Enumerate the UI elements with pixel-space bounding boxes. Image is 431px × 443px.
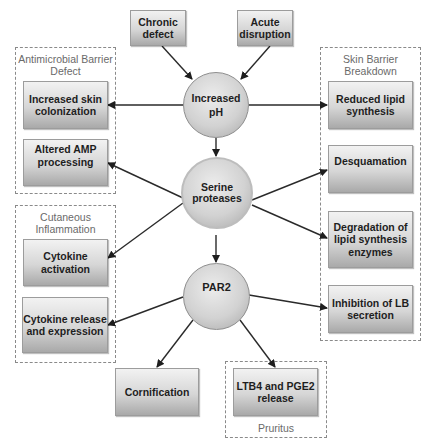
node-inhibition-lb-secretion: Inhibition of LB secretion: [328, 285, 413, 333]
arrow-serine-to-cytokine-activation: [108, 203, 183, 258]
node-label: Degradation of lipid synthesis enzymes: [333, 221, 407, 259]
node-cornification: Cornification: [115, 368, 199, 416]
node-cytokine-activation: Cytokine activation: [23, 239, 108, 286]
node-label: Inhibition of LB secretion: [332, 297, 409, 322]
node-label: LTB4 and PGE2 release: [237, 380, 315, 405]
node-label: Altered AMP processing: [34, 143, 96, 168]
node-increased-ph: Increased pH: [183, 72, 249, 138]
node-label: PAR2: [202, 281, 231, 294]
arrow-serine-to-degradation: [252, 205, 327, 238]
arrow-acute-to-ph: [241, 46, 270, 79]
node-label: Acute disruption: [239, 16, 290, 41]
node-label: Cytokine release and expression: [23, 313, 106, 338]
node-ltb4-pge2-release: LTB4 and PGE2 release: [233, 368, 318, 416]
node-label: Cornification: [125, 386, 190, 399]
arrow-par2-to-ltb4: [240, 320, 275, 367]
node-reduced-lipid-synthesis: Reduced lipid synthesis: [328, 81, 413, 129]
arrow-serine-to-amp: [108, 163, 183, 198]
node-par2: PAR2: [183, 263, 250, 330]
arrow-par2-to-lb: [249, 295, 327, 308]
node-acute-disruption: Acute disruption: [237, 10, 293, 46]
node-desquamation: Desquamation: [328, 145, 413, 193]
node-label: Increased skin colonization: [29, 93, 102, 118]
node-label: Desquamation: [334, 155, 406, 168]
arrow-par2-to-cornification: [157, 320, 193, 367]
node-label: Increased pH: [191, 91, 240, 119]
node-increased-skin-colonization: Increased skin colonization: [23, 81, 108, 129]
node-label: Reduced lipid synthesis: [336, 93, 405, 118]
node-label: Serine proteases: [192, 182, 242, 204]
node-label: Chronic defect: [138, 16, 178, 41]
node-cytokine-release-expression: Cytokine release and expression: [22, 297, 108, 353]
node-degradation-lipid-enzymes: Degradation of lipid synthesis enzymes: [328, 211, 413, 268]
arrow-par2-to-cytokine-release: [108, 297, 183, 325]
node-label: Cytokine activation: [41, 250, 90, 275]
node-serine-proteases: Serine proteases: [181, 157, 253, 229]
node-altered-amp-processing: Altered AMP processing: [23, 139, 108, 186]
arrow-serine-to-desquamation: [252, 170, 327, 200]
node-chronic-defect: Chronic defect: [130, 10, 186, 46]
arrow-chronic-to-ph: [162, 46, 192, 79]
